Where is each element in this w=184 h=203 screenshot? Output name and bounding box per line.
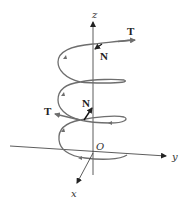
normal-vector-top: [95, 44, 102, 49]
helix-figure: z y x O T N N T: [0, 0, 184, 203]
origin-label: O: [96, 141, 104, 152]
z-axis-label: z: [91, 9, 98, 20]
tangent-label-top: T: [127, 25, 135, 37]
x-axis-label: x: [71, 188, 77, 199]
tangent-label-middle: T: [44, 105, 52, 117]
y-axis: [10, 146, 166, 156]
normal-label-middle: N: [82, 97, 90, 109]
normal-label-top: N: [100, 50, 108, 62]
y-axis-label: y: [171, 151, 178, 162]
helix-diagram: z y x O T N N T: [0, 0, 184, 203]
tangent-vector-top: [118, 40, 135, 42]
